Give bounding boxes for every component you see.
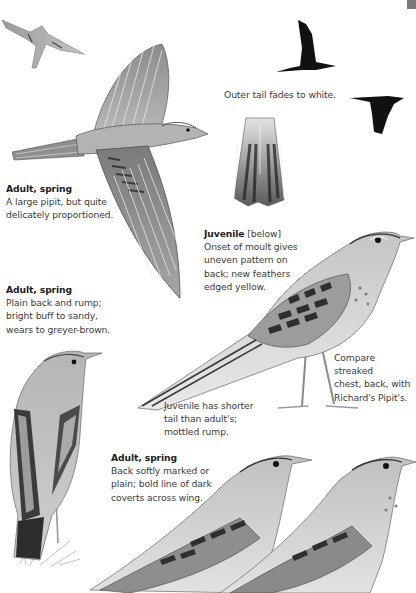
caption-line: Richard's Pipit's. (334, 391, 416, 404)
caption-line: wears to greyer-brown. (6, 323, 110, 336)
caption-title: Adult, spring (111, 451, 212, 464)
tail-detail-illustration (228, 114, 290, 209)
caption-line: Outer tail fades to white. (224, 88, 336, 101)
caption-line: uneven pattern on (204, 253, 298, 266)
caption-line: edged yellow. (204, 280, 298, 293)
caption-line: Juvenile has shorter (164, 399, 253, 412)
page-corner-marker (407, 0, 416, 9)
caption-title: Adult, spring (6, 283, 110, 296)
caption-line: mottled rump. (164, 425, 253, 438)
caption-title: Adult, spring (6, 182, 113, 195)
caption-adult-plain: Adult, spring Plain back and rump; brigh… (6, 283, 110, 336)
caption-line: A large pipit, but quite (6, 195, 113, 208)
caption-line: back; new feathers (204, 267, 298, 280)
caption-juvenile-tail: Juvenile has shorter tail than adult's; … (164, 399, 253, 439)
caption-adult-wing: Adult, spring Back softly marked or plai… (111, 451, 212, 504)
silhouette-wings-down-illustration (348, 92, 410, 136)
caption-line: plain; bold line of dark (111, 477, 212, 490)
caption-compare: Compare streaked chest, back, with Richa… (334, 351, 416, 404)
silhouette-wings-up-illustration (272, 18, 342, 76)
caption-line: Back softly marked or (111, 464, 212, 477)
caption-line: delicately proportioned. (6, 208, 113, 221)
caption-line: Onset of moult gives (204, 240, 298, 253)
caption-line: Plain back and rump; (6, 296, 110, 309)
caption-line: tail than adult's; (164, 412, 253, 425)
caption-line: bright buff to sandy, (6, 309, 110, 322)
caption-outer-tail: Outer tail fades to white. (224, 88, 336, 101)
caption-title-note: [below] (244, 228, 280, 239)
caption-line: Compare streaked (334, 351, 416, 377)
caption-juvenile: Juvenile [below] Onset of moult gives un… (204, 227, 298, 293)
caption-line: coverts across wing. (111, 491, 212, 504)
caption-title: Juvenile (204, 228, 244, 239)
caption-adult-flight: Adult, spring A large pipit, but quite d… (6, 182, 113, 222)
caption-line: chest, back, with (334, 377, 416, 390)
